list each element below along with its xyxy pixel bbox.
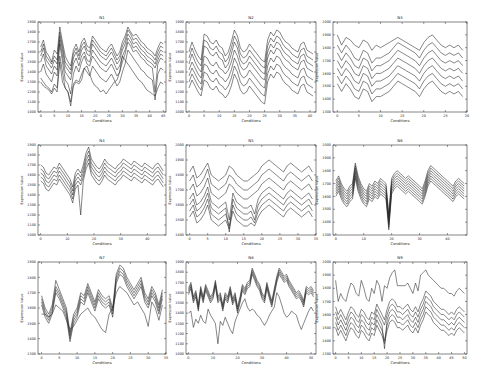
series-line <box>336 301 465 348</box>
x-axis-label: Conditions <box>241 361 260 365</box>
x-tick-label: 20 <box>111 356 115 360</box>
y-tick-label: 1600 <box>27 173 36 177</box>
x-tick-label: 20 <box>389 237 393 241</box>
x-tick-label: 20 <box>93 114 97 118</box>
series-line <box>189 42 313 74</box>
y-tick-label: 1200 <box>175 90 184 94</box>
x-tick-label: 10 <box>378 114 382 118</box>
y-tick-label: 1800 <box>175 173 184 177</box>
x-tick-label: 5 <box>203 114 205 118</box>
series-line <box>189 293 314 344</box>
y-tick-label: 1300 <box>27 80 36 84</box>
x-axis-label: Conditions <box>390 242 409 246</box>
y-tick-label: 1700 <box>322 59 331 63</box>
y-tick-label: 1800 <box>322 286 331 290</box>
series-line <box>337 73 462 94</box>
y-tick-label: 1800 <box>27 30 36 34</box>
y-tick-label: 1900 <box>175 158 184 162</box>
y-tick-label: 1300 <box>175 80 184 84</box>
y-tick-label: 1400 <box>322 97 331 101</box>
y-tick-label: 1600 <box>322 195 331 199</box>
x-tick-label: 15 <box>242 237 246 241</box>
subplot-title: N7 <box>99 255 105 260</box>
subplot-n2: 1000110012001300140015001600170018001900… <box>168 15 316 123</box>
subplot-title: N6 <box>397 138 403 143</box>
y-tick-label: 1400 <box>175 70 184 74</box>
x-tick-label: 0 <box>40 356 42 360</box>
series-line <box>41 50 164 102</box>
series-line <box>336 270 465 302</box>
y-tick-label: 1200 <box>175 332 184 336</box>
x-tick-label: 25 <box>278 237 282 241</box>
y-tick-label: 1200 <box>27 213 36 217</box>
y-tick-label: 2000 <box>322 143 331 147</box>
x-tick-label: 30 <box>146 356 150 360</box>
y-tick-label: 1700 <box>322 182 331 186</box>
series-line <box>189 36 313 68</box>
y-tick-label: 1400 <box>175 311 184 315</box>
x-tick-label: 15 <box>79 114 83 118</box>
x-axis-label: Conditions <box>241 119 260 123</box>
y-tick-label: 1400 <box>322 220 331 224</box>
y-tick-label: 1600 <box>322 313 331 317</box>
y-tick-label: 1900 <box>175 260 184 264</box>
y-tick-label: 1800 <box>27 276 36 280</box>
y-tick-label: 1400 <box>27 70 36 74</box>
plot-frame <box>186 145 316 235</box>
x-tick-label: 5 <box>58 356 60 360</box>
y-tick-label: 1600 <box>27 306 36 310</box>
y-tick-label: 1300 <box>322 110 331 114</box>
x-tick-label: 5 <box>347 356 349 360</box>
x-axis-label: Conditions <box>390 361 409 365</box>
x-tick-label: 35 <box>314 237 318 241</box>
plot-frame <box>186 22 316 112</box>
y-tick-label: 1700 <box>175 40 184 44</box>
y-tick-label: 1500 <box>27 60 36 64</box>
x-tick-label: 15 <box>400 114 404 118</box>
x-tick-label: 20 <box>260 237 264 241</box>
y-tick-label: 1300 <box>27 203 36 207</box>
series-line <box>336 291 465 320</box>
x-tick-label: 10 <box>359 356 363 360</box>
y-tick-label: 1500 <box>27 322 36 326</box>
series-line <box>41 163 164 215</box>
subplot-title: N4 <box>99 138 105 143</box>
y-tick-label: 1500 <box>175 218 184 222</box>
x-axis-label: Conditions <box>241 242 260 246</box>
x-tick-label: 35 <box>164 356 168 360</box>
subplot-n3: 1300140015001600170018001900200005101520… <box>315 15 469 123</box>
x-tick-label: 40 <box>145 237 149 241</box>
x-tick-label: 5 <box>53 114 55 118</box>
y-axis-label: Expression Value <box>168 53 172 82</box>
y-tick-label: 1900 <box>27 20 36 24</box>
y-tick-label: 1500 <box>175 60 184 64</box>
x-tick-label: 0 <box>334 356 336 360</box>
y-tick-label: 2000 <box>322 260 331 264</box>
subplot-n1: 1000110012001300140015001600170018001900… <box>20 15 166 123</box>
y-tick-label: 1900 <box>322 33 331 37</box>
x-tick-label: 0 <box>189 237 191 241</box>
subplot-title: N3 <box>397 15 403 20</box>
x-tick-label: 20 <box>247 114 251 118</box>
y-tick-label: 1900 <box>322 273 331 277</box>
y-tick-label: 1800 <box>322 46 331 50</box>
x-tick-label: 10 <box>211 356 215 360</box>
x-tick-label: 30 <box>119 237 123 241</box>
x-axis-label: Conditions <box>92 361 111 365</box>
x-tick-label: 25 <box>398 356 402 360</box>
subplot-n4: 1000110012001300140015001600170018001900… <box>20 138 166 246</box>
y-tick-label: 1500 <box>322 207 331 211</box>
x-tick-label: 40 <box>445 237 449 241</box>
y-tick-label: 1100 <box>27 223 36 227</box>
x-tick-label: 15 <box>232 114 236 118</box>
y-tick-label: 1300 <box>175 322 184 326</box>
y-tick-label: 2000 <box>322 20 331 24</box>
y-tick-label: 1300 <box>322 352 331 356</box>
x-tick-label: 40 <box>308 114 312 118</box>
x-tick-label: 30 <box>465 114 469 118</box>
y-tick-label: 1100 <box>27 100 36 104</box>
x-tick-label: 10 <box>65 237 69 241</box>
x-tick-label: 20 <box>235 356 239 360</box>
x-axis-label: Conditions <box>92 242 111 246</box>
x-tick-label: 20 <box>92 237 96 241</box>
